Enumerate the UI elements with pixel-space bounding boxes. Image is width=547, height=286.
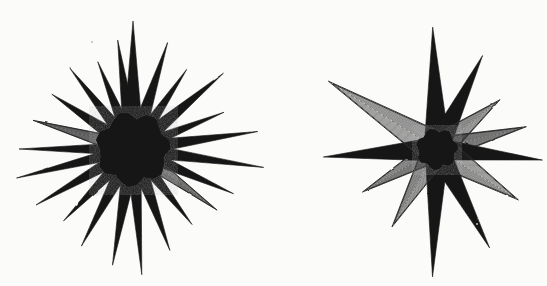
starburst-svg bbox=[0, 0, 547, 286]
paper-speck-upper-left bbox=[91, 41, 93, 43]
figure-canvas: Left starburst Right starburst bbox=[0, 0, 547, 286]
paper-speck-upper-right bbox=[476, 223, 478, 225]
